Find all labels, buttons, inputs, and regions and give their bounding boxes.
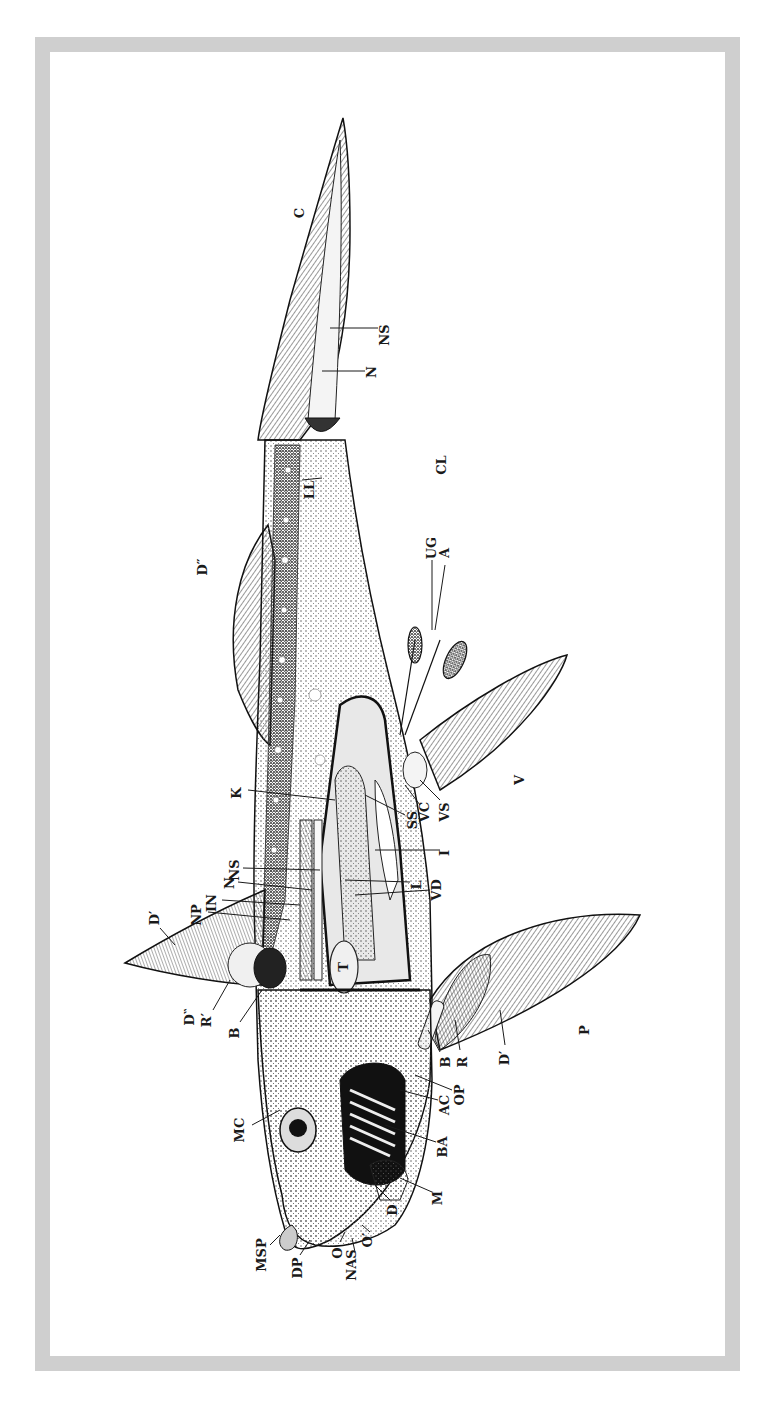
label-l: L	[409, 880, 424, 889]
leader-line-a	[435, 565, 445, 630]
label-cl: CL	[434, 455, 449, 475]
label-d1b: D‶	[182, 1008, 197, 1025]
tail-stump	[305, 418, 340, 432]
label-d1: D′	[147, 910, 162, 925]
pelvic-fin-base	[403, 752, 427, 788]
label-dp: DP	[290, 1257, 305, 1278]
label-b_dorsal: B	[227, 1028, 242, 1039]
label-t: T	[336, 962, 351, 972]
vertebral-column	[300, 820, 312, 980]
label-op: OP	[452, 1084, 467, 1105]
label-a: A	[437, 547, 452, 559]
label-k: K	[229, 787, 244, 799]
leader-line-msp	[270, 1235, 280, 1245]
label-ac: AC	[437, 1095, 452, 1116]
label-np: NP	[189, 904, 204, 926]
shark-diagram: CNSNLLCLUGAD″KVSSVCVSINSNINNPLVDD′TD‶R′B…	[0, 0, 763, 1403]
label-m: M	[430, 1191, 445, 1205]
label-v: V	[512, 774, 527, 786]
label-o: O	[330, 1247, 345, 1258]
label-msp: MSP	[254, 1238, 269, 1272]
spiracle	[280, 1225, 298, 1250]
label-vc: VC	[417, 802, 432, 823]
label-p: P	[577, 1025, 592, 1035]
label-d2: D″	[195, 558, 210, 575]
label-vs: VS	[437, 802, 452, 822]
label-d1_pect: D′	[497, 1050, 512, 1065]
label-r_pect: R	[455, 1056, 470, 1067]
label-r1: R′	[199, 1012, 214, 1027]
label-in: IN	[204, 894, 219, 912]
leader-line-r1	[213, 980, 230, 1010]
label-ns_tail: NS	[377, 324, 392, 345]
label-n_tail: N	[364, 366, 379, 378]
label-o1: O′	[360, 1232, 375, 1247]
label-ll: LL	[302, 481, 317, 499]
label-i: I	[437, 850, 452, 856]
dorsal-fin-basal	[254, 948, 286, 988]
pelvic-fin	[420, 655, 567, 790]
label-ba: BA	[435, 1136, 450, 1158]
label-mc: MC	[232, 1118, 247, 1143]
label-d: D	[385, 1204, 400, 1215]
label-c: C	[292, 208, 307, 218]
neural-spine	[314, 820, 322, 980]
label-nas: NAS	[344, 1249, 359, 1280]
label-b_pect: B	[438, 1057, 453, 1068]
label-vd: VD	[429, 879, 444, 901]
label-n_body: N	[222, 877, 237, 889]
pupil	[289, 1119, 307, 1137]
